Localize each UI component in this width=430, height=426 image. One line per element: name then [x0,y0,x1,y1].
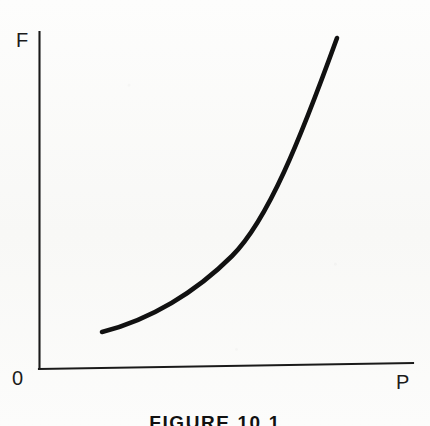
x-axis-label: P [396,372,410,392]
figure-container: F 0 P FIGURE 10.1 [0,0,430,426]
exponential-curve [102,38,337,332]
figure-caption: FIGURE 10.1 [0,412,430,426]
x-axis-line [39,363,413,369]
origin-label: 0 [12,368,23,388]
plot-canvas [0,0,430,426]
y-axis-label: F [16,30,28,50]
